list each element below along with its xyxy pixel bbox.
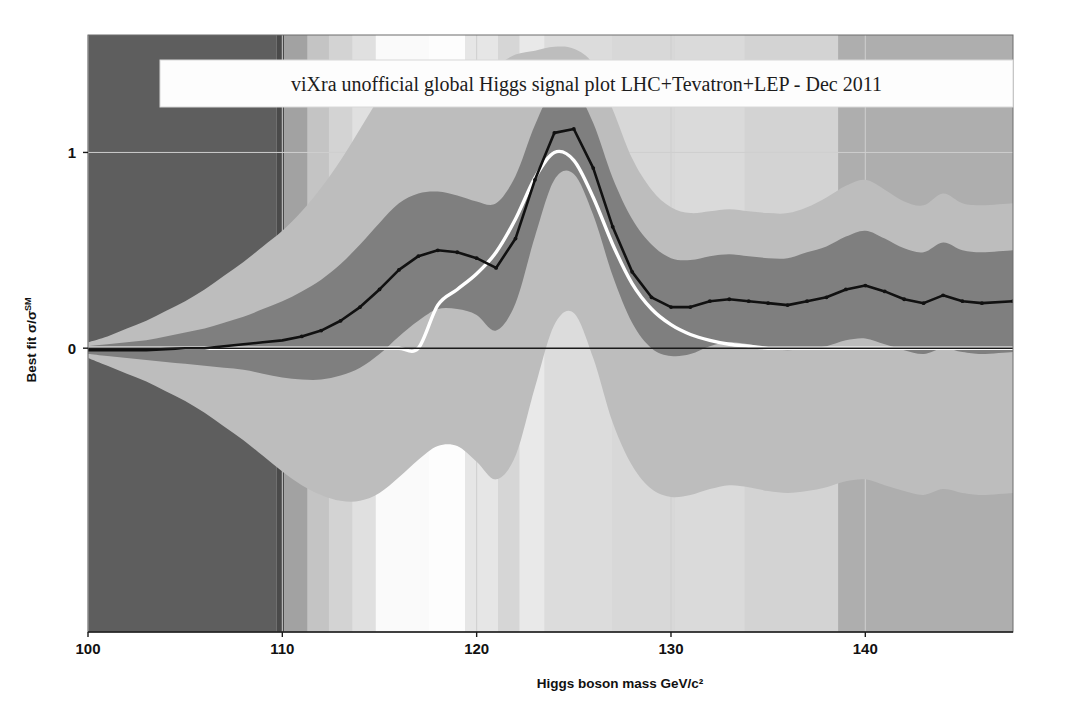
data-point-marker	[650, 295, 654, 299]
data-point-marker	[630, 270, 634, 274]
data-point-marker	[961, 299, 965, 303]
data-point-marker	[922, 301, 926, 305]
data-point-marker	[339, 319, 343, 323]
data-point-marker	[494, 266, 498, 270]
x-tick-label: 110	[270, 640, 294, 657]
data-point-marker	[475, 256, 479, 260]
y-axis-tick-labels: 01	[68, 144, 88, 357]
data-point-marker	[844, 288, 848, 292]
data-point-marker	[863, 284, 867, 288]
data-point-marker	[300, 335, 304, 339]
data-point-marker	[825, 295, 829, 299]
data-point-marker	[455, 250, 459, 254]
x-axis-title: Higgs boson mass GeV/c²	[537, 676, 704, 691]
chart-title: viXra unofficial global Higgs signal plo…	[291, 73, 882, 96]
data-point-marker	[727, 297, 731, 301]
data-point-marker	[786, 303, 790, 307]
x-tick-label: 130	[658, 640, 683, 657]
data-point-marker	[552, 131, 556, 135]
data-point-marker	[319, 329, 323, 333]
data-point-marker	[436, 248, 440, 252]
y-axis-title-text: Best fit σ/σ	[24, 311, 39, 383]
data-point-marker	[378, 288, 382, 292]
x-axis-tick-labels: 100110120130140	[75, 632, 877, 657]
y-axis-title-group: Best fit σ/σSM	[23, 297, 39, 382]
data-point-marker	[611, 225, 615, 229]
y-axis-title-superscript: SM	[23, 297, 33, 311]
data-point-marker	[591, 166, 595, 170]
data-point-marker	[397, 268, 401, 272]
data-point-marker	[533, 178, 537, 182]
y-axis-title: Best fit σ/σSM	[23, 297, 39, 382]
data-point-marker	[766, 301, 770, 305]
data-point-marker	[747, 299, 751, 303]
data-point-marker	[941, 293, 945, 297]
data-point-marker	[708, 299, 712, 303]
higgs-signal-plot-figure: 100110120130140 01 Higgs boson mass GeV/…	[0, 0, 1079, 701]
data-point-marker	[514, 237, 518, 241]
data-point-marker	[416, 254, 420, 258]
x-tick-label: 140	[853, 640, 878, 657]
data-point-marker	[805, 299, 809, 303]
data-point-marker	[669, 305, 673, 309]
data-point-marker	[980, 301, 984, 305]
data-point-marker	[358, 305, 362, 309]
data-point-marker	[902, 297, 906, 301]
data-point-marker	[883, 290, 887, 294]
y-tick-label: 1	[68, 144, 76, 161]
x-tick-label: 120	[464, 640, 489, 657]
data-point-marker	[689, 305, 693, 309]
chart-canvas: 100110120130140 01 Higgs boson mass GeV/…	[0, 0, 1079, 701]
y-tick-label: 0	[68, 340, 76, 357]
data-point-marker	[572, 127, 576, 131]
x-tick-label: 100	[75, 640, 100, 657]
